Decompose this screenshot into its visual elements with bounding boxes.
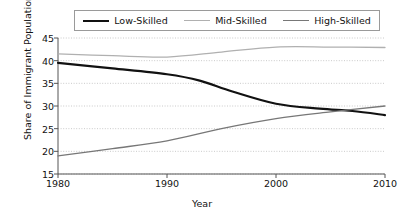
x-tick-label-2000: 2000 xyxy=(254,178,298,189)
x-tick-labels: 1980199020002010 xyxy=(0,0,404,223)
x-tick-label-2010: 2010 xyxy=(363,178,404,189)
x-tick-label-1980: 1980 xyxy=(36,178,80,189)
line-chart: Low-Skilled Mid-Skilled High-Skilled Sha… xyxy=(0,0,404,223)
x-tick-label-1990: 1990 xyxy=(145,178,189,189)
